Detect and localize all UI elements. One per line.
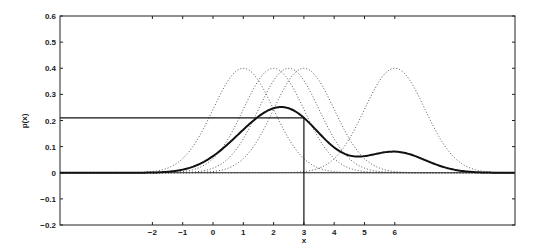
y-tick-label: −0.2 (40, 221, 56, 230)
density-curve (60, 107, 515, 173)
axes-box (60, 16, 515, 225)
y-tick-label: 0.2 (45, 117, 57, 126)
kernel-curve (60, 68, 515, 173)
x-tick-label: −1 (178, 228, 188, 237)
x-tick-label: 6 (393, 228, 398, 237)
y-tick-label: −0.1 (40, 195, 56, 204)
density-chart: −2−10123456 −0.2−0.100.10.20.30.40.50.6 … (0, 0, 536, 250)
y-tick-label: 0 (52, 169, 57, 178)
kernel-curves (60, 68, 515, 173)
y-tick-label: 0.4 (45, 64, 57, 73)
kernel-curve (60, 68, 515, 173)
annotation-lines (60, 118, 304, 225)
x-tick-label: 2 (271, 228, 276, 237)
y-tick-label: 0.5 (45, 38, 57, 47)
density-estimate-curve (60, 107, 515, 173)
x-tick-label: 4 (332, 228, 337, 237)
y-tick-label: 0.3 (45, 90, 57, 99)
x-axis-label: x (302, 236, 307, 245)
y-tick-label: 0.6 (45, 12, 57, 21)
kernel-curve (60, 68, 515, 173)
x-axis-ticks: −2−10123456 (148, 16, 398, 237)
plot-frame (60, 16, 515, 225)
kernel-curve (60, 68, 515, 173)
y-tick-label: 0.1 (45, 143, 57, 152)
kernel-curve (60, 68, 515, 173)
y-axis-label: p(x) (20, 113, 29, 128)
y-axis-ticks: −0.2−0.100.10.20.30.40.50.6 (40, 12, 515, 230)
x-tick-label: 5 (362, 228, 367, 237)
x-tick-label: 1 (241, 228, 246, 237)
x-tick-label: −2 (148, 228, 158, 237)
x-tick-label: 0 (211, 228, 216, 237)
